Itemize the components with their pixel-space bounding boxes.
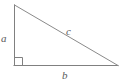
- label-leg-a: a: [1, 33, 7, 44]
- label-hypotenuse-c: c: [66, 26, 71, 37]
- right-triangle-figure: a b c: [0, 0, 124, 84]
- label-leg-b: b: [62, 70, 68, 81]
